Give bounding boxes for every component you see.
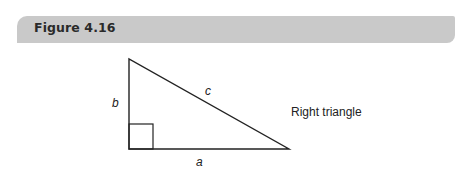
right-angle-marker	[129, 124, 153, 149]
caption-right-triangle: Right triangle	[291, 105, 362, 119]
side-label-b: b	[112, 96, 119, 110]
right-triangle-diagram	[0, 0, 470, 176]
side-label-a: a	[196, 155, 203, 169]
side-label-c: c	[205, 84, 211, 98]
